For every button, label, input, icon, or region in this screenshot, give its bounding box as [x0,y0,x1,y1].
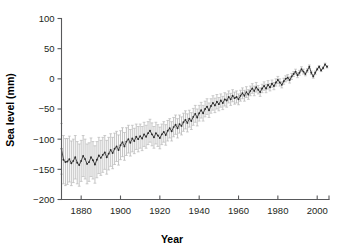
data-point [151,133,153,135]
x-tick-label: 1940 [189,205,210,216]
data-point [224,98,226,100]
data-point [131,138,133,140]
data-point [63,159,65,161]
data-point [257,89,259,91]
data-point [155,132,157,134]
data-point [157,135,159,137]
data-point [243,95,245,97]
data-point [127,138,129,140]
data-point [206,106,208,108]
data-point [90,156,92,158]
data-point [72,160,74,162]
data-point [173,126,175,128]
data-point [251,88,253,90]
data-point [84,158,86,160]
data-point [302,71,304,73]
x-tick-label: 2000 [307,205,328,216]
data-point [293,73,295,75]
data-point [232,95,234,97]
data-point [194,113,196,115]
data-point [96,159,98,161]
data-point [120,144,122,146]
data-point [324,63,326,65]
data-point [261,88,263,90]
y-tick-label: −150 [33,164,54,175]
data-point [186,122,188,124]
data-point [310,72,312,74]
data-point [92,159,94,161]
data-point [76,162,78,164]
data-point [259,91,261,93]
data-point [188,118,190,120]
data-point [100,157,102,159]
data-point [283,80,285,82]
x-tick-label: 1960 [228,205,249,216]
data-point [253,90,255,92]
data-point [279,82,281,84]
data-point [192,116,194,118]
data-point [249,90,251,92]
data-point [179,123,181,125]
data-point [110,149,112,151]
x-axis-title: Year [161,233,183,245]
data-point [326,66,328,68]
data-point [82,155,84,157]
data-point [74,156,76,158]
data-point [182,121,184,123]
data-point [202,112,204,114]
data-point [171,130,173,132]
data-point [306,69,308,71]
data-point [139,135,141,137]
y-tick-label: 100 [39,13,55,24]
chart-canvas: 100500−50−100−150−200 188019001920194019… [0,0,344,248]
data-point [265,88,267,90]
data-point [78,164,80,166]
data-point [106,156,108,158]
data-point [312,75,314,77]
x-tick-label: 1900 [110,205,131,216]
data-point [277,79,279,81]
data-point [80,160,82,162]
data-point [273,85,275,87]
x-tick-label: 1920 [149,205,170,216]
y-tick-label: 50 [44,43,55,54]
data-point [304,73,306,75]
y-tick-label: −200 [33,194,54,205]
data-point [159,137,161,139]
data-point [177,127,179,129]
data-point [137,138,139,140]
data-point [200,109,202,111]
data-point [216,101,218,103]
data-point [145,136,147,138]
data-point [222,102,224,104]
data-point [297,74,299,76]
data-point [98,155,100,157]
data-point [247,94,249,96]
data-point [64,161,66,163]
data-point [238,98,240,100]
data-point [88,161,90,163]
data-point [281,84,283,86]
y-tick-label: 0 [49,73,54,84]
data-point [129,142,131,144]
data-point [316,68,318,70]
data-point [153,136,155,138]
data-point [210,105,212,107]
data-point [147,132,149,134]
data-point [190,120,192,122]
data-point [141,138,143,140]
data-point [289,79,291,81]
data-point [149,130,151,132]
data-point [86,163,88,165]
data-point [204,108,206,110]
data-point [214,104,216,106]
y-tick-label: −100 [33,134,54,145]
data-point [228,96,230,98]
data-point [181,125,183,127]
data-point [112,152,114,154]
data-point [220,100,222,102]
data-point [275,82,277,84]
data-point [196,116,198,118]
x-tick-label: 1880 [71,205,92,216]
data-point [66,161,68,163]
